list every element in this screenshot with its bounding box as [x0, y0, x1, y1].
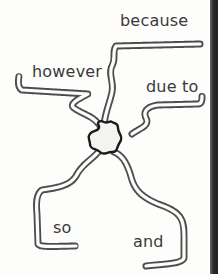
road-due-to [132, 96, 202, 134]
label-so: so [53, 220, 72, 236]
road-however [18, 76, 100, 126]
label-however: however [32, 64, 102, 80]
center-star [89, 121, 122, 154]
label-due-to: due to [146, 79, 199, 95]
label-and: and [133, 234, 164, 250]
road-map-diagram [0, 0, 218, 274]
label-because: because [120, 13, 188, 29]
